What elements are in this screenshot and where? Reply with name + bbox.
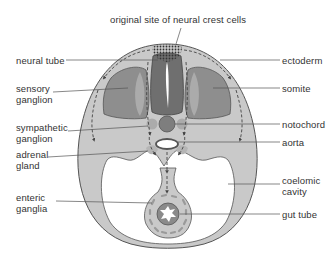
label-sympathetic-ganglion: sympathetic ganglion: [16, 122, 68, 144]
label-neural-crest-origin: original site of neural crest cells: [110, 14, 246, 25]
label-coelomic-cavity: coelomic cavity: [282, 175, 320, 197]
label-somite: somite: [282, 83, 311, 94]
aorta-shape: [156, 139, 178, 149]
notochord-shape: [159, 116, 175, 132]
neural-crest-migration-diagram: original site of neural crest cells neur…: [0, 0, 335, 269]
label-adrenal-gland: adrenal gland: [16, 149, 48, 171]
label-notochord: notochord: [282, 119, 325, 130]
label-aorta: aorta: [282, 137, 304, 148]
label-gut-tube: gut tube: [282, 209, 317, 220]
label-ectoderm: ectoderm: [282, 55, 322, 66]
label-enteric-ganglia: enteric ganglia: [16, 192, 47, 214]
label-sensory-ganglion: sensory ganglion: [16, 83, 53, 105]
label-neural-tube: neural tube: [16, 55, 65, 66]
